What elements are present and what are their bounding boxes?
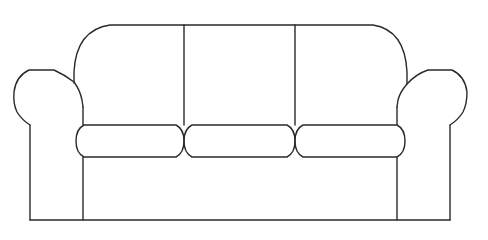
seat-cushion-left bbox=[76, 125, 184, 157]
seat-cushion-middle bbox=[184, 125, 295, 157]
sofa-illustration bbox=[0, 0, 488, 240]
sofa-left-arm bbox=[14, 70, 83, 125]
sofa-backrest-outline bbox=[74, 25, 407, 84]
seat-cushion-right bbox=[295, 125, 405, 157]
sofa-drawing-canvas bbox=[0, 0, 488, 240]
